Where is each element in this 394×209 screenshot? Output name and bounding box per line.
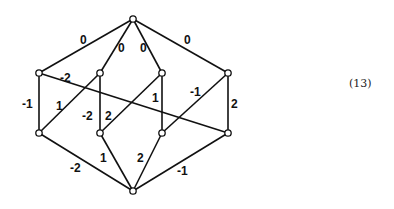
edge-weight-label: 2 <box>231 97 238 111</box>
edge-weight-label: 0 <box>140 41 147 55</box>
edge-weight-label: -1 <box>22 97 33 111</box>
lattice-diagram: 0000-1-21-221-12-212-1 <box>0 0 394 209</box>
edge-weight-label: 0 <box>184 33 191 47</box>
edge-weight-label: -2 <box>70 161 81 175</box>
edge-weight-label: 1 <box>100 151 107 165</box>
edge-weight-label: 1 <box>56 99 63 113</box>
node-mll <box>97 130 103 136</box>
node-ru <box>225 70 231 76</box>
node-rl <box>225 130 231 136</box>
edge-weight-label: -2 <box>60 71 71 85</box>
edge-weight-label: 2 <box>105 109 112 123</box>
equation-number: (13) <box>349 77 372 90</box>
node-ll <box>36 130 42 136</box>
node-mrl <box>159 130 165 136</box>
edge-weight-label: 0 <box>118 41 125 55</box>
edge-weight-label: -1 <box>177 164 188 178</box>
node-lu <box>36 70 42 76</box>
node-top <box>130 16 136 22</box>
edge-ru-mrl <box>162 73 228 133</box>
edge-weight-label: 0 <box>80 33 87 47</box>
edge-weight-label: -1 <box>190 85 201 99</box>
edge-ll-bot <box>39 133 133 191</box>
edge-weight-label: 1 <box>152 91 159 105</box>
edge-top-mlu <box>100 19 133 73</box>
node-mlu <box>97 70 103 76</box>
edge-weight-label: 2 <box>137 151 144 165</box>
node-bot <box>130 188 136 194</box>
edge-weight-label: -2 <box>82 109 93 123</box>
node-mru <box>159 70 165 76</box>
